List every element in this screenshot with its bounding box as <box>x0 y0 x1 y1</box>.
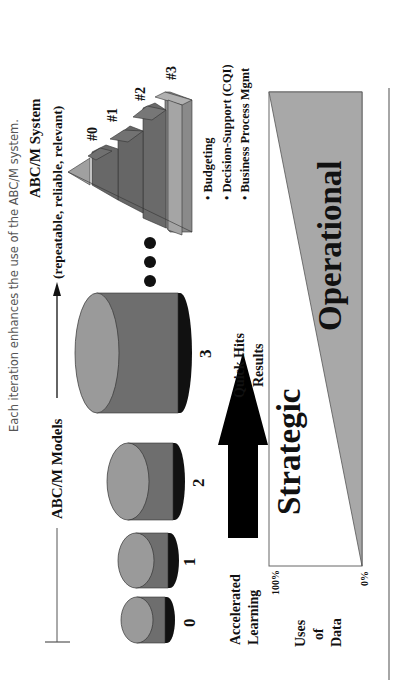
system-title: ABC/M System <box>27 98 43 198</box>
system-subtitle: (repeatable, reliable, relevant) <box>50 106 65 279</box>
arrow-start-label-1: Accelerated <box>228 574 243 645</box>
axis-label-of: of <box>311 628 326 640</box>
abcm-iteration-figure: Each iteration enhances the use of the A… <box>0 0 394 694</box>
bullet-business-process: • Business Process Mgmt <box>238 67 252 200</box>
model-label-3: 3 <box>196 350 215 359</box>
model-label-1: 1 <box>180 558 199 567</box>
pyramid-tier-3: #3 <box>164 66 179 80</box>
region-operational-label: Operational <box>312 161 348 332</box>
region-strategic-label: Strategic <box>271 389 307 515</box>
arrow-end-label-1: Quick Hits <box>232 332 247 398</box>
model-cylinder-2 <box>107 443 185 520</box>
continuation-dots-icon <box>144 237 156 287</box>
tick-100-percent: 100% <box>270 570 281 595</box>
model-cylinder-1 <box>118 533 179 588</box>
models-timeline-line <box>45 528 70 642</box>
model-cylinder-0 <box>121 597 175 643</box>
axis-label-uses: Uses <box>293 619 308 647</box>
timeline-arrow-icon <box>53 282 61 398</box>
models-label: ABC/M Models <box>49 418 65 519</box>
arrow-start-label-2: Learning <box>246 590 261 645</box>
pyramid-tier-1: #1 <box>105 108 120 122</box>
bullet-decision-support: • Decision-Support (CQI) <box>220 64 234 200</box>
arrow-end-label-2: Results <box>251 343 266 387</box>
figure-caption: Each iteration enhances the use of the A… <box>7 119 21 432</box>
model-label-0: 0 <box>180 619 199 628</box>
pyramid-tier-0: #0 <box>85 127 100 141</box>
system-pyramid <box>68 92 192 235</box>
model-label-2: 2 <box>189 479 208 488</box>
tick-0-percent: 0% <box>359 571 370 586</box>
bullet-budgeting: • Budgeting <box>201 137 215 200</box>
model-cylinder-3 <box>75 293 192 413</box>
axis-label-data: Data <box>329 618 344 647</box>
pyramid-tier-2: #2 <box>133 87 148 101</box>
